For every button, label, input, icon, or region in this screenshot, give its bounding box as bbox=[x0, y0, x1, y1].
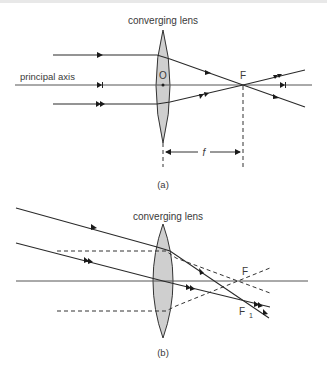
secondary-focal-label: F bbox=[239, 306, 245, 317]
optical-centre-label: O bbox=[159, 70, 167, 81]
lens-ray-diagrams: converging lens principal axis O F bbox=[0, 0, 327, 374]
oblique-ray-centre bbox=[16, 243, 270, 307]
dimension-arrow-left-icon bbox=[165, 149, 171, 155]
focal-point-label-a: F bbox=[240, 70, 246, 81]
principal-axis-label: principal axis bbox=[20, 71, 75, 82]
arrowhead-icon bbox=[205, 70, 211, 75]
axis-arrowhead-icon bbox=[280, 82, 285, 88]
axis-arrowhead-icon bbox=[97, 82, 102, 88]
arrowhead-icon bbox=[97, 52, 103, 58]
bottom-ray-a bbox=[53, 70, 305, 104]
double-arrowhead-icon bbox=[190, 285, 195, 291]
caption-a: (a) bbox=[157, 179, 169, 190]
lens-label-b: converging lens bbox=[133, 211, 203, 222]
dimension-arrow-right-icon bbox=[235, 149, 241, 155]
top-ray-a bbox=[53, 55, 305, 107]
focal-point-label-b: F bbox=[242, 266, 248, 277]
cropped-text-strip bbox=[0, 0, 327, 3]
double-arrowhead-icon bbox=[199, 94, 204, 99]
lens-label-a: converging lens bbox=[128, 15, 198, 26]
diagram-b: converging lens F F 1 (b) bbox=[16, 208, 308, 358]
arrowhead-icon bbox=[263, 309, 268, 315]
diagram-a: converging lens principal axis O F bbox=[15, 15, 312, 190]
caption-b: (b) bbox=[157, 347, 169, 358]
double-arrowhead-icon bbox=[100, 101, 105, 107]
optical-centre-dot bbox=[162, 84, 165, 87]
secondary-focal-subscript: 1 bbox=[249, 312, 253, 319]
arrowhead-icon bbox=[273, 94, 279, 99]
oblique-ray-top bbox=[16, 208, 269, 318]
